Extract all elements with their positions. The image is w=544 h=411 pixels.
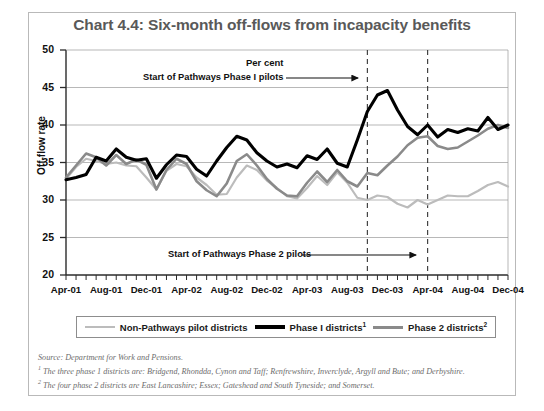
y-tick-label: 40 [28,118,54,130]
x-tick-label: Dec-03 [372,284,403,295]
y-tick-label: 45 [28,81,54,93]
x-tick-label: Aug-03 [331,284,364,295]
y-tick-label: 50 [28,43,54,55]
x-tick-label: Dec-01 [131,284,162,295]
note-2: 2 The four phase 2 districts are East La… [38,378,508,392]
x-tick-label: Dec-04 [492,284,523,295]
note-1: 1 The three phase 1 districts are: Bridg… [38,364,508,378]
chart-plot [0,0,544,411]
legend-label-non-pathways: Non-Pathways pilot districts [120,322,248,333]
y-axis-ticks [60,50,66,275]
legend-item-phase2: Phase 2 districts2 [373,321,487,333]
legend-item-non-pathways: Non-Pathways pilot districts [85,322,248,333]
x-tick-label: Aug-02 [210,284,243,295]
y-tick-label: 35 [28,156,54,168]
x-tick-label: Apr-04 [412,284,442,295]
x-tick-label: Aug-04 [452,284,485,295]
x-tick-label: Apr-02 [171,284,201,295]
legend-item-phase1: Phase I districts1 [255,321,367,333]
legend-swatch-icon [255,325,285,329]
chart-legend: Non-Pathways pilot districts Phase I dis… [76,316,496,338]
x-tick-label: Apr-01 [51,284,81,295]
legend-swatch-icon [85,326,115,328]
legend-label-phase2: Phase 2 districts2 [408,321,487,333]
data-series-layer [66,91,508,208]
chart-notes: Source: Department for Work and Pensions… [38,352,508,391]
x-axis-ticks [66,275,508,280]
y-tick-label: 20 [28,268,54,280]
x-tick-label: Dec-02 [251,284,282,295]
note-source: Source: Department for Work and Pensions… [38,352,508,364]
x-tick-label: Aug-01 [90,284,123,295]
x-tick-label: Apr-03 [292,284,322,295]
legend-label-phase1: Phase I districts1 [290,321,367,333]
y-tick-label: 25 [28,231,54,243]
y-tick-label: 30 [28,193,54,205]
chart-figure: Chart 4.4: Six-month off-flows from inca… [0,0,544,411]
legend-swatch-icon [373,326,403,329]
